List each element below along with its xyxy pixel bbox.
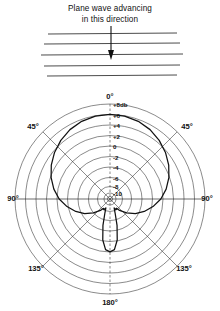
angle-label-90-left: 90°: [7, 194, 18, 203]
radial-tick-minus6: -6: [113, 175, 119, 182]
radial-tick-8: +8db: [113, 101, 128, 108]
angle-label-180: 180°: [102, 298, 118, 307]
radial-tick-minus2: -2: [113, 154, 119, 161]
angle-label-45-left: 45°: [27, 122, 38, 131]
radial-tick-minus10: -10: [113, 190, 123, 197]
radial-tick-2: +2: [113, 133, 121, 140]
caption-line-2: in this direction: [82, 15, 139, 24]
radial-tick-0: 0: [113, 143, 117, 150]
angle-label-0: 0°: [106, 92, 113, 101]
caption-line-1: Plane wave advancing: [68, 4, 152, 13]
angle-label-45-right: 45°: [181, 122, 192, 131]
polar-radiation-pattern-figure: Plane wave advancing in this direction: [0, 0, 220, 311]
radial-tick-4: +4: [113, 122, 121, 129]
angle-label-90-right: 90°: [201, 194, 212, 203]
radial-tick-minus4: -4: [113, 164, 119, 171]
angle-label-135-right: 135°: [176, 264, 192, 273]
angle-label-135-left: 135°: [28, 264, 44, 273]
